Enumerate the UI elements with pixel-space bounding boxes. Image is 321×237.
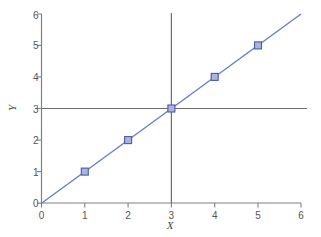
x-tick-label-5: 5 (255, 210, 261, 221)
data-point-marker (81, 168, 88, 175)
y-tick-label-6: 6 (33, 10, 39, 21)
chart-plot-area (0, 0, 321, 237)
y-tick-label-5: 5 (33, 40, 39, 51)
y-tick-label-0: 0 (33, 198, 39, 209)
x-tick-label-6: 6 (298, 210, 304, 221)
x-axis-ticks (42, 203, 302, 208)
y-axis-title: Y (6, 105, 18, 111)
y-tick-label-1: 1 (33, 166, 39, 177)
x-tick-label-2: 2 (125, 210, 131, 221)
y-tick-label-4: 4 (33, 71, 39, 82)
x-tick-label-0: 0 (39, 210, 45, 221)
y-tick-label-3: 3 (33, 103, 39, 114)
x-tick-label-4: 4 (212, 210, 218, 221)
data-point-marker (255, 42, 262, 49)
data-point-marker (125, 137, 132, 144)
x-tick-label-1: 1 (82, 210, 88, 221)
y-tick-label-2: 2 (33, 135, 39, 146)
chart-container: 0 1 2 3 4 5 6 0 1 2 3 4 5 6 X Y (0, 0, 321, 237)
data-point-marker (211, 73, 218, 80)
data-point-marker (168, 105, 175, 112)
x-axis-title: X (167, 219, 174, 231)
